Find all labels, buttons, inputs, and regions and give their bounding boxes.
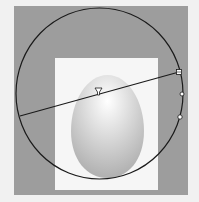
gradient-aspect-handle[interactable]: [180, 92, 184, 96]
gradient-angle-handle[interactable]: [178, 115, 182, 119]
gradient-overlay: [0, 0, 199, 202]
egg-shape[interactable]: [71, 75, 144, 178]
